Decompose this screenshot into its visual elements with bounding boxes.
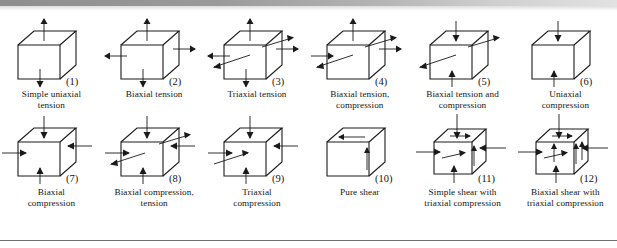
figure-cell-2: (2) Biaxial tension bbox=[103, 11, 206, 112]
figure-cell-7: (7) Biaxial compression bbox=[0, 112, 103, 210]
figure-cell-5: (5) Biaxial tension and compression bbox=[411, 11, 514, 112]
stress-state-figure-grid: (1) Simple uniaxial tension bbox=[0, 11, 617, 210]
cube-number-12: (12) bbox=[580, 173, 598, 185]
cube-number-5: (5) bbox=[478, 76, 491, 88]
caption-line: tension bbox=[1, 100, 101, 111]
caption-line: Biaxial shear with bbox=[515, 187, 615, 198]
caption-line: Biaxial tension bbox=[104, 89, 204, 100]
figure-cell-10: (10) Pure shear bbox=[308, 112, 411, 210]
cube-diagram-3: (3) bbox=[206, 11, 308, 89]
cube-diagram-7: (7) bbox=[0, 112, 102, 186]
caption-line: compression bbox=[515, 100, 615, 111]
cube-diagram-1: (1) bbox=[0, 11, 102, 89]
cube-number-6: (6) bbox=[580, 76, 593, 88]
caption-line: Biaxial bbox=[1, 187, 101, 198]
caption-line: Biaxial tension, bbox=[310, 89, 410, 100]
caption-line: tension bbox=[104, 198, 204, 209]
cube-number-3: (3) bbox=[272, 76, 285, 88]
cube-diagram-2: (2) bbox=[103, 11, 205, 89]
cube-diagram-8: (8) bbox=[103, 112, 205, 186]
figure-cell-9: (9) Triaxial compression bbox=[206, 112, 309, 210]
figure-row-1: (1) Simple uniaxial tension bbox=[0, 11, 617, 112]
figure-cell-12: (12) Biaxial shear with triaxial compres… bbox=[514, 112, 617, 210]
cube-diagram-6: (6) bbox=[514, 11, 616, 89]
cube-diagram-11: (11) bbox=[412, 112, 514, 186]
caption-line: Simple uniaxial bbox=[1, 89, 101, 100]
cell-caption-2: Biaxial tension bbox=[104, 89, 204, 100]
caption-line: triaxial compression bbox=[413, 198, 513, 209]
cell-caption-12: Biaxial shear with triaxial compression bbox=[515, 187, 615, 210]
cell-caption-9: Triaxial compression bbox=[207, 187, 307, 210]
caption-line: Triaxial bbox=[207, 187, 307, 198]
caption-line: compression bbox=[207, 198, 307, 209]
cube-number-10: (10) bbox=[375, 173, 393, 185]
cube-diagram-5: (5) bbox=[412, 11, 514, 89]
caption-line: compression bbox=[413, 100, 513, 111]
cube-number-9: (9) bbox=[272, 173, 285, 185]
cube-diagram-4: (4) bbox=[309, 11, 411, 89]
figure-row-2: (7) Biaxial compression bbox=[0, 112, 617, 210]
caption-line: Triaxial tension bbox=[207, 89, 307, 100]
cube-number-2: (2) bbox=[169, 76, 182, 88]
cell-caption-5: Biaxial tension and compression bbox=[413, 89, 513, 112]
cube-number-7: (7) bbox=[66, 173, 79, 185]
cell-caption-8: Biaxial compression, tension bbox=[104, 187, 204, 210]
figure-cell-6: (6) Uniaxial compression bbox=[514, 11, 617, 112]
figure-cell-11: (11) Simple shear with triaxial compress… bbox=[411, 112, 514, 210]
figure-bottom-rule bbox=[0, 240, 617, 241]
cell-caption-11: Simple shear with triaxial compression bbox=[413, 187, 513, 210]
cell-caption-1: Simple uniaxial tension bbox=[1, 89, 101, 112]
cube-number-1: (1) bbox=[66, 76, 79, 88]
cube-diagram-12: (12) bbox=[514, 112, 616, 186]
cell-caption-10: Pure shear bbox=[310, 187, 410, 198]
caption-line: compression bbox=[310, 100, 410, 111]
figure-cell-4: (4) Biaxial tension, compression bbox=[308, 11, 411, 112]
caption-line: Biaxial tension and bbox=[413, 89, 513, 100]
cube-number-4: (4) bbox=[375, 76, 388, 88]
figure-cell-3: (3) Triaxial tension bbox=[206, 11, 309, 112]
cube-diagram-10: (10) bbox=[309, 112, 411, 186]
caption-line: Uniaxial bbox=[515, 89, 615, 100]
figure-cell-1: (1) Simple uniaxial tension bbox=[0, 11, 103, 112]
caption-line: Simple shear with bbox=[413, 187, 513, 198]
caption-line: triaxial compression bbox=[515, 198, 615, 209]
figure-cell-8: (8) Biaxial compression, tension bbox=[103, 112, 206, 210]
cell-caption-7: Biaxial compression bbox=[1, 187, 101, 210]
cube-number-11: (11) bbox=[478, 173, 496, 185]
cell-caption-4: Biaxial tension, compression bbox=[310, 89, 410, 112]
cube-number-8: (8) bbox=[169, 173, 182, 185]
cell-caption-6: Uniaxial compression bbox=[515, 89, 615, 112]
cube-diagram-9: (9) bbox=[206, 112, 308, 186]
caption-line: compression bbox=[1, 198, 101, 209]
caption-line: Pure shear bbox=[310, 187, 410, 198]
cell-caption-3: Triaxial tension bbox=[207, 89, 307, 100]
caption-line: Biaxial compression, bbox=[104, 187, 204, 198]
